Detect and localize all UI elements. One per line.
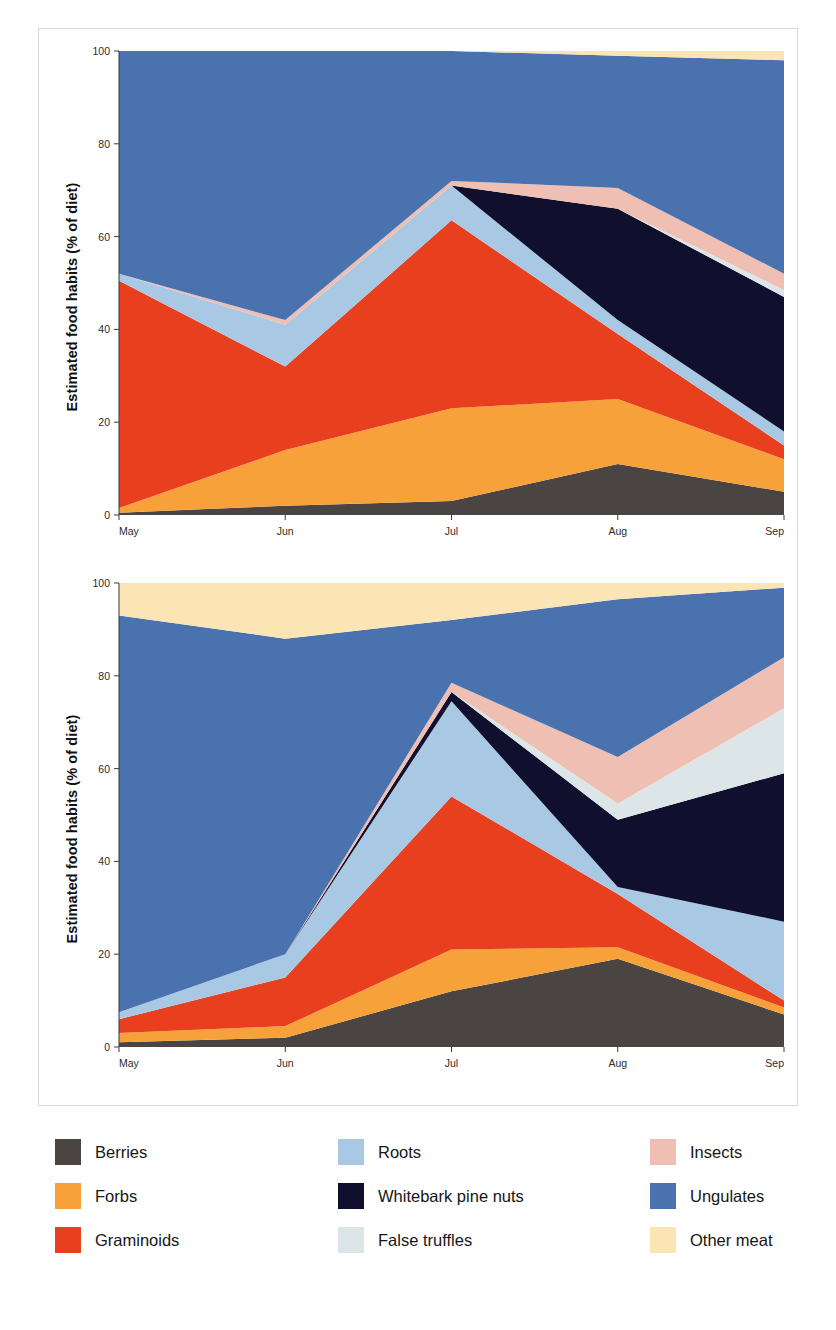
y-tick-label: 40 [98,323,110,335]
x-tick-label: Jun [277,525,294,537]
y-tick-label: 0 [104,1041,110,1053]
x-tick-label: Jul [445,1057,458,1069]
legend-item: Berries [55,1130,179,1174]
legend-label: False truffles [378,1231,472,1250]
y-tick-label: 100 [92,577,110,589]
legend-swatch-insects [650,1139,676,1165]
x-tick-label: Jul [445,525,458,537]
legend-item: Forbs [55,1174,179,1218]
legend-label: Other meat [690,1231,773,1250]
legend-label: Graminoids [95,1231,179,1250]
legend-swatch-other-meat [650,1227,676,1253]
x-tick-label: Sep [765,1057,784,1069]
y-tick-label: 40 [98,855,110,867]
x-tick-label: May [119,525,140,537]
y-tick-label: 0 [104,509,110,521]
legend-item: Other meat [650,1218,773,1262]
chart-panel-male: Estimated food habits (% of diet) Male g… [39,37,799,557]
chart-panel-female: Estimated food habits (% of diet) Female… [39,569,799,1089]
stacked-area-chart-male: 020406080100MayJunJulAugSep [39,37,799,557]
legend-swatch-false-truffles [338,1227,364,1253]
legend-label: Berries [95,1143,147,1162]
y-tick-label: 80 [98,670,110,682]
legend-item: Ungulates [650,1174,773,1218]
legend-label: Roots [378,1143,421,1162]
legend-item: Roots [338,1130,524,1174]
x-tick-label: Aug [608,525,627,537]
legend-swatch-graminoids [55,1227,81,1253]
y-tick-label: 80 [98,138,110,150]
legend-swatch-whitebark-pine-nuts [338,1183,364,1209]
legend-column-1: BerriesForbsGraminoids [55,1130,179,1262]
x-tick-label: May [119,1057,140,1069]
legend-label: Whitebark pine nuts [378,1187,524,1206]
figure-frame: Estimated food habits (% of diet) Male g… [38,28,798,1106]
legend-swatch-ungulates [650,1183,676,1209]
x-tick-label: Jun [277,1057,294,1069]
legend-item: Insects [650,1130,773,1174]
legend-item: Whitebark pine nuts [338,1174,524,1218]
y-tick-label: 60 [98,763,110,775]
legend-column-2: RootsWhitebark pine nutsFalse truffles [338,1130,524,1262]
legend-item: Graminoids [55,1218,179,1262]
legend-swatch-berries [55,1139,81,1165]
y-tick-label: 20 [98,416,110,428]
stacked-area-chart-female: 020406080100MayJunJulAugSep [39,569,799,1089]
legend-swatch-roots [338,1139,364,1165]
legend-item: False truffles [338,1218,524,1262]
y-tick-label: 20 [98,948,110,960]
legend-label: Ungulates [690,1187,764,1206]
x-tick-label: Sep [765,525,784,537]
legend: BerriesForbsGraminoids RootsWhitebark pi… [38,1130,798,1305]
y-tick-label: 60 [98,231,110,243]
legend-column-3: InsectsUngulatesOther meat [650,1130,773,1262]
legend-label: Forbs [95,1187,137,1206]
legend-label: Insects [690,1143,742,1162]
legend-swatch-forbs [55,1183,81,1209]
x-tick-label: Aug [608,1057,627,1069]
y-tick-label: 100 [92,45,110,57]
